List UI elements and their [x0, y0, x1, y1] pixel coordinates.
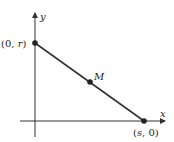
y-axis-label: y	[39, 11, 46, 22]
label-x-intercept: (s, 0)	[133, 127, 159, 138]
point-y-intercept	[32, 40, 38, 46]
point-midpoint	[87, 79, 93, 85]
point-x-intercept	[141, 118, 147, 124]
x-axis-label: x	[160, 108, 166, 119]
label-midpoint: M	[93, 71, 105, 82]
coordinate-diagram: y x (0, r) M (s, 0)	[0, 0, 174, 142]
label-y-intercept: (0, r)	[1, 38, 26, 49]
